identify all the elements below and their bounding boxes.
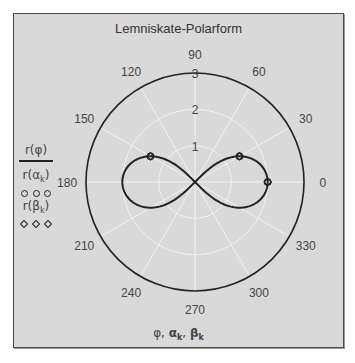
angle-tick-label: 90	[188, 48, 202, 62]
angle-tick-label: 0	[320, 176, 327, 190]
grid-spoke	[195, 182, 289, 237]
angle-tick-label: 60	[252, 65, 266, 79]
grid-spoke	[141, 182, 196, 276]
circle-marker-icon	[44, 190, 51, 197]
diamond-marker-icon	[20, 220, 28, 228]
legend-diamond-markers	[19, 218, 53, 230]
angle-tick-label: 300	[249, 286, 269, 300]
legend-label-r-alpha: r(αk)	[19, 168, 53, 187]
legend: r(φ) r(αk) r(βk)	[19, 143, 53, 230]
grid-spoke	[195, 182, 250, 276]
polar-plot-area: 0306090120150180210240270300330123	[0, 0, 355, 363]
diamond-marker-icon	[32, 220, 40, 228]
legend-label-r-beta: r(βk)	[19, 199, 53, 218]
radial-tick-label: 1	[192, 140, 199, 154]
angle-tick-label: 270	[185, 303, 205, 317]
angle-tick-label: 180	[57, 176, 77, 190]
angle-tick-label: 120	[121, 65, 141, 79]
legend-line-swatch	[19, 160, 53, 162]
circle-marker-icon	[21, 190, 28, 197]
angle-tick-label: 240	[121, 286, 141, 300]
angle-tick-label: 150	[74, 112, 94, 126]
grid-spoke	[141, 88, 196, 182]
circle-marker-icon	[33, 190, 40, 197]
radial-tick-label: 3	[192, 67, 199, 81]
legend-circle-markers	[19, 187, 53, 199]
grid-spoke	[101, 182, 195, 237]
angle-tick-label: 210	[74, 239, 94, 253]
grid-spoke	[195, 88, 250, 182]
legend-label-r-phi: r(φ)	[19, 143, 53, 157]
angle-tick-label: 330	[296, 239, 316, 253]
x-axis-label: φ, αk, βk	[13, 326, 344, 342]
angle-tick-label: 30	[299, 112, 313, 126]
diamond-marker-icon	[44, 220, 52, 228]
radial-tick-label: 2	[192, 103, 199, 117]
